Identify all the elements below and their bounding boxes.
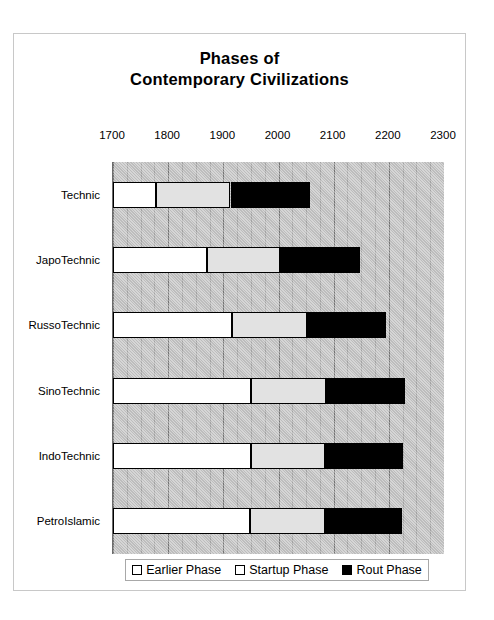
x-axis-tick-2200: 2200 xyxy=(366,129,410,141)
x-axis-tick-1800: 1800 xyxy=(145,129,189,141)
bar-segment-petroislamic-rout-phase[interactable] xyxy=(325,508,402,534)
legend-item-earlier[interactable]: Earlier Phase xyxy=(132,563,221,577)
y-axis-tick-technic: Technic xyxy=(8,188,100,202)
bar-segment-japotechnic-earlier-phase[interactable] xyxy=(113,247,207,273)
bar-row-indotechnic xyxy=(113,443,444,469)
plot-background-texture xyxy=(113,162,444,554)
bar-row-technic xyxy=(113,182,444,208)
y-axis-tick-sinotechnic: SinoTechnic xyxy=(8,384,100,398)
y-axis-tick-petroislamic: PetroIslamic xyxy=(8,514,100,528)
bar-segment-russotechnic-rout-phase[interactable] xyxy=(307,312,386,338)
legend-label-startup: Startup Phase xyxy=(249,563,328,577)
bar-segment-sinotechnic-startup-phase[interactable] xyxy=(251,378,326,404)
bar-segment-technic-startup-phase[interactable] xyxy=(156,182,230,208)
x-axis-tick-2300: 2300 xyxy=(421,129,465,141)
x-axis-tick-2000: 2000 xyxy=(256,129,300,141)
chart-title-line-1: Phases of xyxy=(14,48,465,69)
chart-legend: Earlier PhaseStartup PhaseRout Phase xyxy=(125,559,429,581)
y-axis-category-labels: TechnicJapoTechnicRussoTechnicSinoTechni… xyxy=(14,162,106,554)
legend-swatch-rout-icon xyxy=(342,565,352,575)
y-axis-tick-russotechnic: RussoTechnic xyxy=(8,318,100,332)
legend-item-startup[interactable]: Startup Phase xyxy=(235,563,328,577)
chart-frame: Phases of Contemporary Civilizations 170… xyxy=(13,33,466,591)
bar-row-japotechnic xyxy=(113,247,444,273)
bar-segment-sinotechnic-earlier-phase[interactable] xyxy=(113,378,251,404)
bar-segment-sinotechnic-rout-phase[interactable] xyxy=(326,378,405,404)
bar-segment-japotechnic-startup-phase[interactable] xyxy=(207,247,280,273)
bar-row-russotechnic xyxy=(113,312,444,338)
x-axis-tick-2100: 2100 xyxy=(311,129,355,141)
bar-segment-petroislamic-earlier-phase[interactable] xyxy=(113,508,250,534)
y-axis-tick-indotechnic: IndoTechnic xyxy=(8,449,100,463)
chart-title: Phases of Contemporary Civilizations xyxy=(14,48,465,90)
bar-segment-indotechnic-earlier-phase[interactable] xyxy=(113,443,251,469)
legend-swatch-startup-icon xyxy=(235,565,245,575)
bar-segment-russotechnic-earlier-phase[interactable] xyxy=(113,312,232,338)
bar-segment-technic-rout-phase[interactable] xyxy=(231,182,311,208)
bar-segment-indotechnic-rout-phase[interactable] xyxy=(325,443,403,469)
plot-gridlines xyxy=(113,162,444,554)
plot-area xyxy=(112,162,444,554)
legend-item-rout[interactable]: Rout Phase xyxy=(342,563,421,577)
x-axis-tick-labels: 1700180019002000210022002300 xyxy=(112,129,457,145)
bar-segment-russotechnic-startup-phase[interactable] xyxy=(232,312,308,338)
y-axis-tick-japotechnic: JapoTechnic xyxy=(8,253,100,267)
x-axis-tick-1700: 1700 xyxy=(90,129,134,141)
legend-swatch-earlier-icon xyxy=(132,565,142,575)
bar-segment-japotechnic-rout-phase[interactable] xyxy=(280,247,360,273)
bar-row-sinotechnic xyxy=(113,378,444,404)
x-axis-tick-1900: 1900 xyxy=(200,129,244,141)
legend-label-rout: Rout Phase xyxy=(356,563,421,577)
chart-title-line-2: Contemporary Civilizations xyxy=(14,69,465,90)
legend-label-earlier: Earlier Phase xyxy=(146,563,221,577)
bar-segment-petroislamic-startup-phase[interactable] xyxy=(250,508,325,534)
bar-segment-technic-earlier-phase[interactable] xyxy=(113,182,156,208)
bar-segment-indotechnic-startup-phase[interactable] xyxy=(251,443,325,469)
bar-row-petroislamic xyxy=(113,508,444,534)
